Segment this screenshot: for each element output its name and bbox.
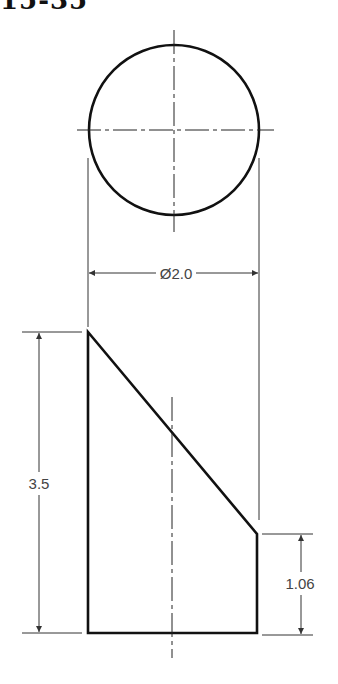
top-view — [77, 30, 274, 232]
short-side-dimension: 1.06 — [262, 534, 315, 635]
height-dimension: 3.5 — [22, 332, 82, 633]
technical-drawing: Ø2.0 3.5 1.06 — [0, 0, 338, 684]
diameter-label: Ø2.0 — [160, 265, 193, 282]
height-label: 3.5 — [29, 475, 50, 492]
front-view — [88, 332, 257, 658]
short-side-label: 1.06 — [285, 575, 314, 592]
